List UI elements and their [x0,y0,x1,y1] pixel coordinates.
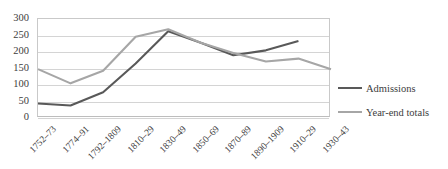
legend-item-label: Admissions [366,83,416,94]
legend-item-label: Year-end totals [366,107,429,118]
legend-item[interactable]: Year-end totals [338,102,448,122]
legend-color-swatch [338,111,362,113]
line-chart: 300250200150100500 1752–731774–911792–18… [0,0,448,169]
legend-item[interactable]: Admissions [338,78,448,98]
chart-legend: AdmissionsYear-end totals [338,78,448,126]
legend-color-swatch [338,87,362,89]
